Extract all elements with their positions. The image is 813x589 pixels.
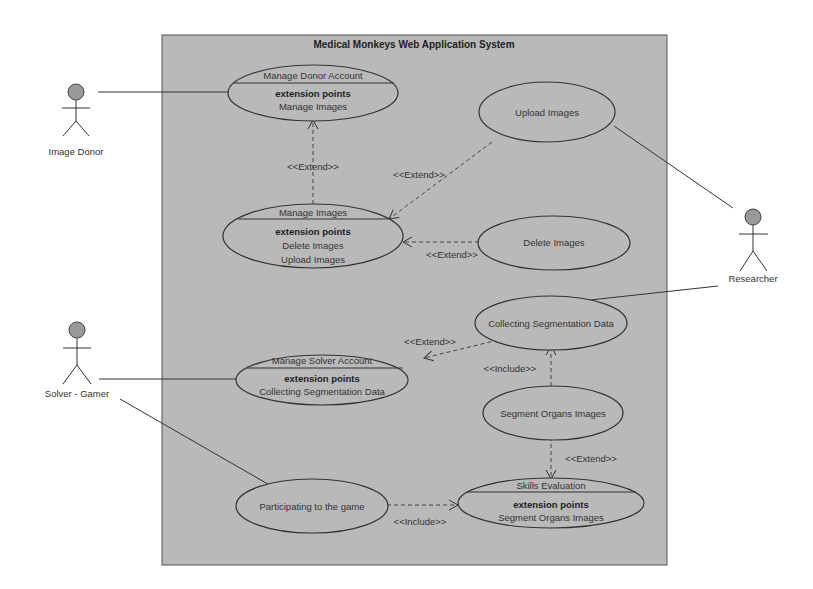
svg-text:Manage Images: Manage Images bbox=[279, 101, 347, 112]
svg-text:Manage Solver Account: Manage Solver Account bbox=[272, 355, 373, 366]
use-case-diagram: Medical Monkeys Web Application System <… bbox=[0, 0, 813, 589]
svg-text:Participating to the game: Participating to the game bbox=[259, 501, 364, 512]
svg-text:Collecting Segmentation Data: Collecting Segmentation Data bbox=[488, 318, 614, 329]
actor-head-icon bbox=[69, 322, 85, 338]
label-extend-2: <<Extend>> bbox=[393, 169, 445, 180]
usecase-upload-images[interactable]: Upload Images bbox=[479, 82, 615, 142]
svg-text:Segment Organs Images: Segment Organs Images bbox=[498, 512, 604, 523]
svg-text:Manage Donor Account: Manage Donor Account bbox=[263, 70, 363, 81]
svg-text:Delete Images: Delete Images bbox=[282, 240, 344, 251]
system-title: Medical Monkeys Web Application System bbox=[313, 39, 514, 50]
svg-text:extension points: extension points bbox=[513, 499, 588, 510]
svg-text:Segment Organs Images: Segment Organs Images bbox=[500, 408, 606, 419]
usecase-delete-images[interactable]: Delete Images bbox=[478, 216, 630, 270]
label-include-1: <<Include>> bbox=[484, 363, 537, 374]
actor-solver-gamer[interactable]: Solver - Gamer bbox=[45, 322, 109, 399]
usecase-participating-game[interactable]: Participating to the game bbox=[236, 479, 388, 533]
label-extend-1: <<Extend>> bbox=[287, 161, 339, 172]
svg-text:Delete Images: Delete Images bbox=[523, 237, 585, 248]
svg-text:Researcher: Researcher bbox=[728, 273, 777, 284]
usecase-collecting-segmentation-data[interactable]: Collecting Segmentation Data bbox=[475, 296, 627, 350]
label-extend-3: <<Extend>> bbox=[426, 249, 478, 260]
label-include-2: <<Include>> bbox=[394, 516, 447, 527]
svg-text:Collecting Segmentation Data: Collecting Segmentation Data bbox=[259, 386, 385, 397]
usecase-segment-organs-images[interactable]: Segment Organs Images bbox=[483, 386, 623, 440]
svg-text:Upload Images: Upload Images bbox=[515, 107, 579, 118]
usecase-manage-donor-account[interactable]: Manage Donor Account extension points Ma… bbox=[228, 65, 398, 121]
svg-text:Image Donor: Image Donor bbox=[49, 146, 104, 157]
svg-text:extension points: extension points bbox=[275, 226, 350, 237]
label-extend-4: <<Extend>> bbox=[404, 336, 456, 347]
svg-text:extension points: extension points bbox=[275, 88, 350, 99]
svg-text:extension points: extension points bbox=[284, 373, 359, 384]
usecase-skills-evaluation[interactable]: Skills Evaluation extension points Segme… bbox=[458, 478, 644, 528]
usecase-manage-solver-account[interactable]: Manage Solver Account extension points C… bbox=[236, 355, 408, 405]
svg-text:Solver - Gamer: Solver - Gamer bbox=[45, 388, 109, 399]
actor-image-donor[interactable]: Image Donor bbox=[49, 84, 104, 157]
actor-head-icon bbox=[745, 209, 761, 225]
label-extend-5: <<Extend>> bbox=[565, 453, 617, 464]
svg-text:Upload Images: Upload Images bbox=[281, 254, 345, 265]
svg-text:Manage Images: Manage Images bbox=[279, 207, 347, 218]
usecase-manage-images[interactable]: Manage Images extension points Delete Im… bbox=[223, 204, 403, 268]
actor-researcher[interactable]: Researcher bbox=[728, 209, 777, 284]
actor-head-icon bbox=[68, 84, 84, 100]
svg-text:Skills Evaluation: Skills Evaluation bbox=[516, 480, 585, 491]
